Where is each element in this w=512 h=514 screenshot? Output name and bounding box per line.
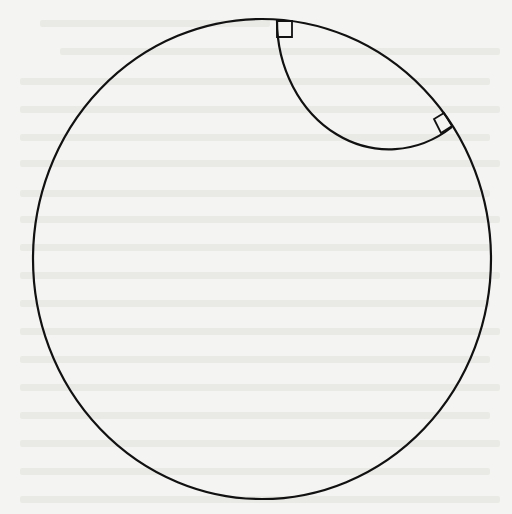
boundary-circle [33,19,491,499]
orthogonal-arc [277,20,452,149]
diagram-canvas [0,0,512,514]
right-angle-marker-top [277,21,292,37]
poincare-disk-diagram [0,0,512,514]
